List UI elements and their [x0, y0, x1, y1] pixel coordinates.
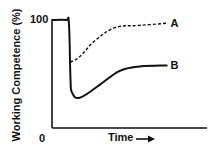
y-tick-100: 100: [30, 13, 48, 25]
series-label-b: B: [171, 59, 179, 71]
y-tick-0: 0: [39, 132, 45, 144]
x-axis-label: Time: [108, 131, 133, 143]
x-axis-arrow-icon: [136, 136, 155, 143]
series-label-a: A: [171, 17, 179, 29]
series-line-a: [70, 23, 167, 62]
y-axis-label: Working Competence (%): [10, 8, 22, 141]
chart: Working Competence (%) 100 0 Time AB: [0, 0, 219, 150]
